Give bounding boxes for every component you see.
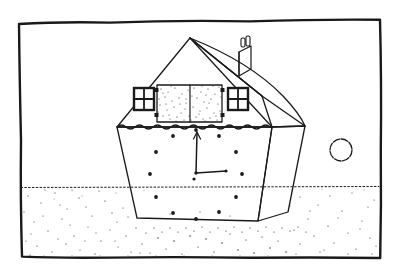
right-dormer-window xyxy=(228,88,248,110)
clock-hour-hand-tip xyxy=(224,169,227,172)
clock-mark-2 xyxy=(234,150,238,154)
clock-mark-7 xyxy=(171,211,175,215)
clock-minute-hand xyxy=(196,133,197,173)
clock-center-shadow xyxy=(192,177,195,180)
illustration-canvas: House Clock Drawing xyxy=(0,0,406,280)
roof-panel-bracket-bottom-left xyxy=(155,113,159,117)
clock-mark-10 xyxy=(154,150,158,154)
clock-mark-12 xyxy=(194,128,198,132)
clock-mark-6 xyxy=(194,217,198,221)
clock-mark-1 xyxy=(217,134,221,138)
clock-mark-4 xyxy=(234,195,238,199)
roof-panel-bracket-bottom-right xyxy=(221,113,225,117)
clock-center-pin xyxy=(194,171,197,174)
clock-mark-8 xyxy=(154,195,158,199)
house-clock-drawing: House Clock Drawing xyxy=(0,0,406,280)
clock-mark-9 xyxy=(148,172,152,176)
clock-mark-3 xyxy=(240,172,244,176)
clock-mark-11 xyxy=(171,134,175,138)
left-dormer-window xyxy=(134,88,154,110)
roof-panel-bracket-top-right xyxy=(221,88,225,92)
clock-mark-5 xyxy=(217,210,221,214)
